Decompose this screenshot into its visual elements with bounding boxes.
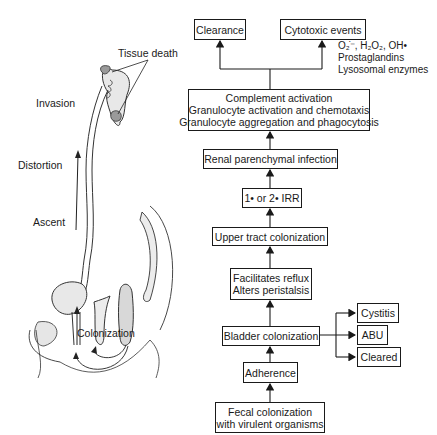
fecal-line-2: with virulent organisms: [217, 418, 324, 430]
mediators-list: O₂̇⁻, H₂O₂, OH• Prostaglandins Lysosomal…: [338, 40, 428, 76]
adherence-box: Adherence: [243, 362, 298, 383]
clearance-box: Clearance: [194, 19, 246, 40]
renal-label: Renal parenchymal infection: [204, 153, 337, 165]
bladder-label: Bladder colonization: [224, 330, 319, 342]
complement-activation-box: Complement activation Granulocyte activa…: [188, 89, 370, 131]
fecal-line-1: Fecal colonization: [228, 406, 312, 418]
mediator-enzymes: Lysosomal enzymes: [338, 64, 428, 76]
upper-tract-box: Upper tract colonization: [212, 227, 328, 246]
mediator-radicals: O₂̇⁻, H₂O₂, OH•: [338, 40, 428, 52]
reflux-line-2: Alters peristalsis: [233, 284, 309, 296]
adherence-label: Adherence: [245, 367, 296, 379]
cytotoxic-events-box: Cytotoxic events: [280, 19, 366, 40]
cytotoxic-label: Cytotoxic events: [284, 24, 361, 36]
upper-tract-label: Upper tract colonization: [215, 231, 325, 243]
cleared-box: Cleared: [357, 347, 401, 367]
mediator-prostaglandins: Prostaglandins: [338, 52, 428, 64]
fecal-colonization-box: Fecal colonization with virulent organis…: [215, 402, 325, 433]
complement-line-1: Complement activation: [226, 92, 333, 104]
abu-box: ABU: [357, 325, 388, 345]
clearance-label: Clearance: [196, 24, 244, 36]
bladder-colonization-box: Bladder colonization: [222, 326, 320, 346]
irr-box: 1• or 2• IRR: [242, 188, 302, 208]
cystitis-box: Cystitis: [357, 303, 399, 323]
cystitis-label: Cystitis: [361, 307, 395, 319]
complement-line-3: Granulocyte aggregation and phagocytosis: [179, 116, 379, 128]
reflux-box: Facilitates reflux Alters peristalsis: [230, 268, 312, 300]
reflux-line-1: Facilitates reflux: [233, 272, 309, 284]
abu-label: ABU: [362, 329, 384, 341]
cleared-label: Cleared: [361, 351, 398, 363]
complement-line-2: Granulocyte activation and chemotaxis: [189, 104, 369, 116]
irr-label: 1• or 2• IRR: [244, 192, 299, 204]
renal-infection-box: Renal parenchymal infection: [203, 149, 338, 169]
